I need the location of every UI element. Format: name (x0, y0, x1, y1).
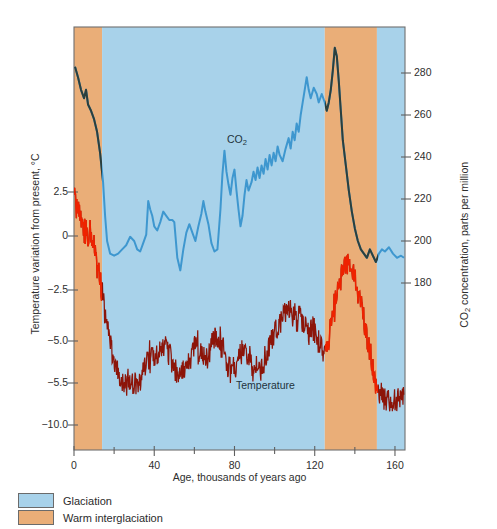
y-axis-right-label-sub: 2 (463, 308, 472, 312)
y-axis-right-label-pre: CO (458, 312, 470, 328)
legend-item-0: Glaciation (18, 492, 163, 509)
y-left-tick-label: −2.5 (20, 283, 68, 295)
y-axis-right-label-post: concentration, parts per million (458, 162, 470, 308)
x-tick-label: 0 (54, 459, 94, 471)
series-label-temperature: Temperature (236, 379, 295, 391)
y-right-tick-label: 220 (414, 192, 432, 204)
y-right-tick-label: 200 (414, 234, 432, 246)
y-left-tick-label: −5.0 (20, 334, 68, 346)
x-tick-label: 160 (375, 459, 415, 471)
x-tick-label: 120 (295, 459, 335, 471)
x-tick-label: 80 (214, 459, 254, 471)
chart-svg (0, 0, 497, 529)
x-tick-label: 40 (134, 459, 174, 471)
legend-item-1: Warm interglaciation (18, 509, 163, 526)
co2-label-sub: 2 (243, 138, 247, 147)
y-right-tick-label: 280 (414, 66, 432, 78)
legend-swatch (18, 510, 54, 525)
y-left-tick-label: −5.5 (20, 376, 68, 388)
chart-legend: GlaciationWarm interglaciation (18, 492, 163, 526)
co2-label-pre: CO (227, 133, 243, 145)
y-left-tick-label: 0 (20, 229, 68, 241)
y-right-tick-label: 260 (414, 108, 432, 120)
y-left-tick-label: 2.5 (20, 185, 68, 197)
y-axis-right-label: CO2 concentration, parts per million (458, 125, 472, 365)
legend-label: Glaciation (63, 495, 112, 507)
legend-label: Warm interglaciation (63, 512, 163, 524)
y-right-tick-label: 180 (414, 276, 432, 288)
climate-chart-figure: Temperature variation from present, °C C… (0, 0, 497, 529)
x-axis-label: Age, thousands of years ago (74, 471, 405, 483)
legend-swatch (18, 493, 54, 508)
band-interglacial-2 (325, 27, 377, 450)
y-axis-left-label: Temperature variation from present, °C (29, 124, 41, 364)
series-label-co2: CO2 (227, 133, 247, 147)
y-left-tick-label: −10.0 (20, 418, 68, 430)
y-right-tick-label: 240 (414, 150, 432, 162)
